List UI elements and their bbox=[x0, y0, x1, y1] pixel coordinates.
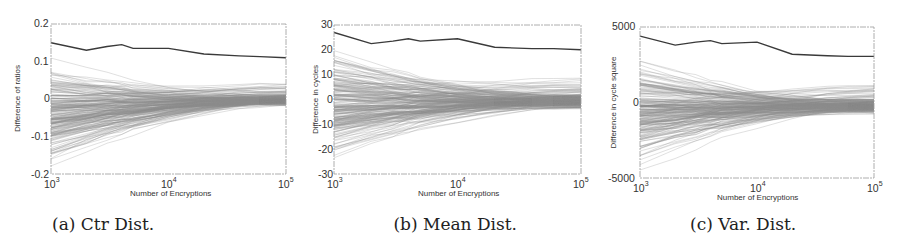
max-difference-line bbox=[51, 43, 286, 58]
y-axis-label: Difference of ratios bbox=[13, 59, 22, 139]
y-axis-label: Difference in cycle square bbox=[609, 48, 618, 158]
y-tick: 30 bbox=[321, 18, 333, 30]
x-tick: 104 bbox=[750, 181, 766, 194]
x-tick: 103 bbox=[44, 177, 60, 190]
x-tick: 105 bbox=[278, 177, 294, 190]
y-tick: -5000 bbox=[608, 172, 635, 184]
x-axis-label: Number of Encryptions bbox=[130, 189, 211, 198]
trace-group bbox=[51, 43, 286, 166]
y-tick: 0 bbox=[44, 92, 50, 104]
x-tick: 103 bbox=[633, 181, 649, 194]
y-tick: 0.1 bbox=[34, 55, 49, 67]
x-axis-label: Number of Encryptions bbox=[418, 189, 499, 198]
chart-var-dist bbox=[600, 0, 905, 210]
y-tick: 10 bbox=[321, 68, 333, 80]
panel-mean-dist: Difference in cycles Number of Encryptio… bbox=[300, 0, 600, 251]
x-tick: 105 bbox=[573, 177, 589, 190]
y-tick: -10 bbox=[318, 118, 333, 130]
max-difference-line bbox=[640, 36, 874, 56]
trace-group bbox=[640, 36, 874, 170]
x-tick: 103 bbox=[327, 177, 343, 190]
y-tick: 5000 bbox=[612, 20, 635, 32]
x-tick: 105 bbox=[867, 181, 883, 194]
caption-ctr-dist: (a) Ctr Dist. bbox=[52, 214, 154, 234]
x-tick: 104 bbox=[450, 177, 466, 190]
y-tick: 0 bbox=[327, 93, 333, 105]
y-tick: 20 bbox=[321, 43, 333, 55]
y-tick: -20 bbox=[318, 143, 333, 155]
trace-group bbox=[334, 33, 581, 158]
y-tick: -0.1 bbox=[31, 130, 49, 142]
x-tick: 104 bbox=[161, 177, 177, 190]
x-axis-label: Number of Encryptions bbox=[717, 193, 798, 202]
y-tick: 0.2 bbox=[34, 17, 49, 29]
y-tick: 0 bbox=[633, 96, 639, 108]
caption-mean-dist: (b) Mean Dist. bbox=[217, 214, 517, 234]
panel-var-dist: Difference in cycle square Number of Enc… bbox=[600, 0, 905, 251]
max-difference-line bbox=[334, 33, 581, 50]
caption-var-dist: (c) Var. Dist. bbox=[690, 214, 796, 234]
